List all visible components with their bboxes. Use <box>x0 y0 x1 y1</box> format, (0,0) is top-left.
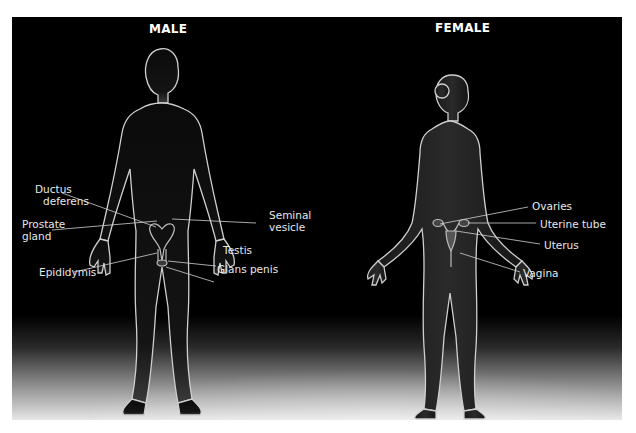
label-ovaries: Ovaries <box>532 200 572 212</box>
male-figure <box>90 49 235 415</box>
label-uterine-tube: Uterine tube <box>540 218 606 230</box>
label-glans-penis: Glans penis <box>217 263 278 275</box>
label-ductus-deferens: Ductus deferens <box>34 183 89 207</box>
male-heading: MALE <box>149 22 187 36</box>
label-seminal-vesicle: Seminal vesicle <box>269 209 311 233</box>
figures-illustration <box>12 17 622 420</box>
diagram-panel: MALE FEMALE Ductus deferens Prostate gla… <box>12 17 622 420</box>
label-testis: Testis <box>223 244 252 256</box>
label-vagina: Vagina <box>523 267 558 279</box>
label-uterus: Uterus <box>544 239 579 251</box>
label-prostate-gland: Prostate gland <box>22 218 65 242</box>
female-heading: FEMALE <box>435 21 490 35</box>
label-epididymis: Epididymis <box>39 266 96 278</box>
